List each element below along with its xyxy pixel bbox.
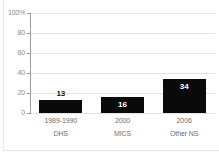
bar-chart-panel: 020406080100%131989-1990DHS162000MICS342… <box>0 0 219 155</box>
x-axis-label-line2-2: MICS <box>88 130 158 138</box>
y-tick-label-60: 60 <box>0 49 25 57</box>
bar-value-label-1: 13 <box>39 89 82 98</box>
x-axis-label-line2-1: DHS <box>26 130 96 138</box>
gridline-y60 <box>30 53 215 54</box>
y-axis-line <box>30 13 31 114</box>
bar-value-label-2: 16 <box>101 100 144 109</box>
y-tick-label-0: 0 <box>0 109 25 117</box>
gridline-y100 <box>30 13 215 14</box>
gridline-y0 <box>30 113 215 114</box>
y-tick-label-40: 40 <box>0 69 25 77</box>
bar-1 <box>39 100 82 113</box>
x-axis-label-line1-3: 2006 <box>149 117 219 125</box>
panel-bottom-divider <box>3 150 219 151</box>
gridline-y80 <box>30 33 215 34</box>
gridline-y40 <box>30 73 215 74</box>
y-tick-label-100: 100% <box>0 9 25 17</box>
x-axis-label-line1-2: 2000 <box>88 117 158 125</box>
bar-value-label-3: 34 <box>163 82 206 91</box>
y-tick-label-20: 20 <box>0 89 25 97</box>
y-tick-label-80: 80 <box>0 29 25 37</box>
x-axis-label-line2-3: Other NS <box>149 130 219 138</box>
x-axis-label-line1-1: 1989-1990 <box>26 117 96 125</box>
